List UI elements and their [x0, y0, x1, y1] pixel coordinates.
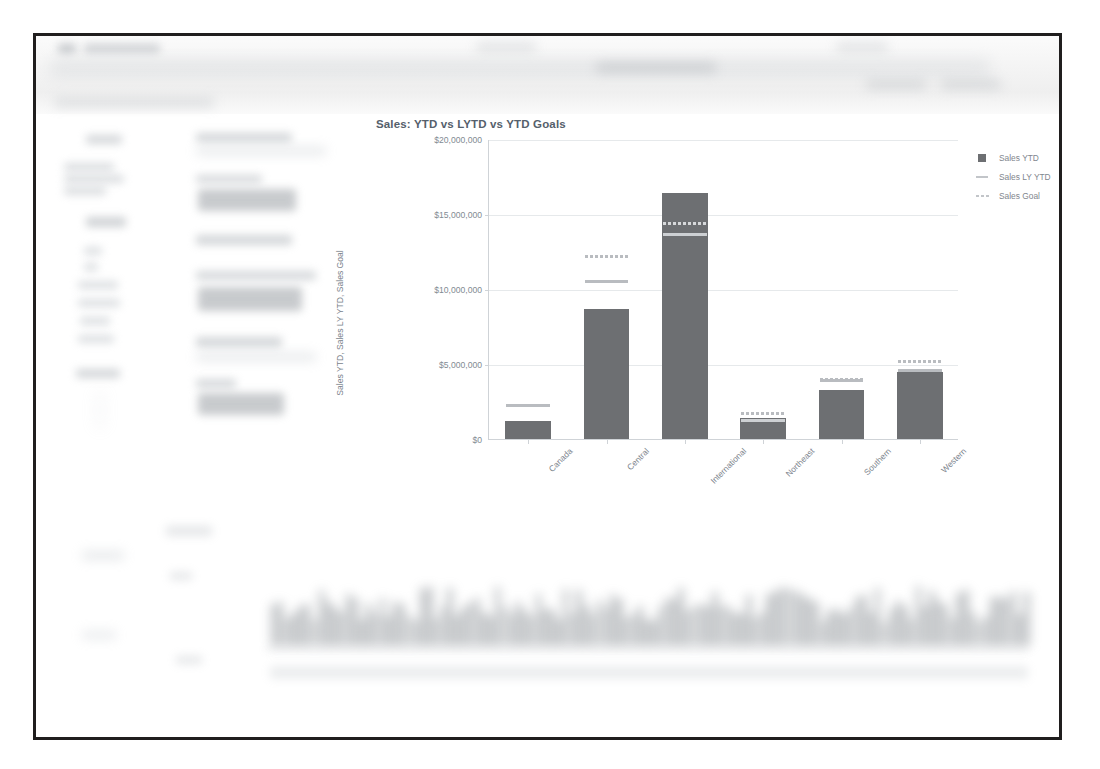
y-axis-title: Sales YTD, Sales LY YTD, Sales Goal	[335, 223, 345, 423]
bar-central[interactable]	[584, 309, 629, 440]
dense-bar	[665, 598, 671, 647]
dense-bar	[509, 614, 515, 646]
x-tick-mark	[920, 440, 921, 444]
dense-bar	[739, 613, 745, 646]
legend-item-sales-goal[interactable]: Sales Goal	[976, 186, 1051, 205]
dense-bar	[834, 609, 840, 646]
marker-ly-ytd-international	[663, 233, 707, 236]
dense-bar	[624, 617, 630, 646]
dense-bar	[895, 601, 901, 646]
dense-bar	[705, 606, 711, 646]
dense-bar	[617, 599, 623, 647]
dense-bar	[597, 600, 603, 646]
y-tick-label: $15,000,000	[434, 210, 482, 220]
dense-bar	[590, 614, 596, 646]
dense-bar	[916, 586, 922, 646]
dense-bar	[882, 622, 888, 646]
dense-bar	[515, 602, 521, 646]
chart-legend: Sales YTD Sales LY YTD Sales Goal	[976, 148, 1051, 205]
x-tick-mark	[685, 440, 686, 444]
dense-bar	[827, 610, 833, 646]
bar-canada[interactable]	[505, 421, 550, 439]
screenshot-frame: Sales: YTD vs LYTD vs YTD Goals Sales YT…	[33, 33, 1062, 740]
dense-bar	[1017, 614, 1023, 646]
dense-bar	[319, 590, 325, 646]
legend-swatch-line-icon	[976, 172, 992, 182]
dense-bar	[278, 602, 284, 646]
dense-bar	[841, 614, 847, 646]
dense-bar	[780, 587, 786, 646]
dense-bar	[692, 606, 698, 646]
dense-bar	[760, 612, 766, 646]
gridline	[489, 215, 958, 216]
dense-bar	[529, 616, 535, 646]
sidebar[interactable]	[58, 131, 178, 691]
bar-international[interactable]	[662, 193, 707, 439]
dense-bar	[990, 597, 996, 646]
y-tick-label: $5,000,000	[439, 360, 482, 370]
dense-bar	[977, 621, 983, 646]
legend-label: Sales Goal	[999, 191, 1040, 201]
dense-bar	[556, 619, 562, 646]
dense-bar	[332, 607, 338, 646]
dense-bar	[393, 602, 399, 646]
dense-bar	[712, 592, 718, 646]
app-toolbar[interactable]	[36, 36, 1059, 114]
dense-bar	[583, 605, 589, 646]
dense-bar	[522, 610, 528, 646]
dense-bar	[753, 617, 759, 646]
dense-bar-series	[271, 584, 1031, 646]
dense-bar	[746, 595, 752, 646]
marker-goal-northeast	[741, 412, 785, 415]
legend-label: Sales YTD	[999, 153, 1039, 163]
legend-item-sales-ly-ytd[interactable]: Sales LY YTD	[976, 167, 1051, 186]
bar-southern[interactable]	[819, 390, 864, 440]
dense-bar	[794, 591, 800, 646]
dense-bar	[773, 591, 779, 646]
dense-bar	[1004, 598, 1010, 646]
plot-area: $20,000,000 $15,000,000 $10,000,000 $5,0…	[488, 140, 958, 440]
dense-bar	[366, 604, 372, 646]
dense-bar	[800, 595, 806, 646]
dense-bar	[807, 599, 813, 646]
marker-goal-southern	[820, 378, 864, 381]
dense-bar	[549, 609, 555, 646]
dense-bar	[495, 587, 501, 646]
dense-bar	[678, 588, 684, 646]
marker-goal-western	[898, 360, 942, 363]
dense-bar	[502, 606, 508, 646]
legend-swatch-square-icon	[976, 153, 992, 163]
dense-bar	[685, 610, 691, 646]
dense-bar	[732, 613, 738, 647]
legend-item-sales-ytd[interactable]: Sales YTD	[976, 148, 1051, 167]
chart-title: Sales: YTD vs LYTD vs YTD Goals	[376, 118, 566, 130]
dense-bar	[576, 590, 582, 646]
marker-goal-central	[585, 255, 629, 258]
dense-bar	[631, 614, 637, 646]
dense-bar	[427, 587, 433, 646]
dense-bar	[400, 604, 406, 646]
marker-ly-ytd-western	[898, 369, 942, 372]
dense-bar	[766, 594, 772, 646]
dense-bar	[305, 604, 311, 646]
dense-bar	[291, 613, 297, 646]
dense-bar	[671, 599, 677, 646]
bar-western[interactable]	[897, 372, 942, 440]
dense-bar	[563, 589, 569, 646]
dense-bar	[787, 589, 793, 646]
dense-bar	[875, 588, 881, 646]
dense-bar	[1024, 592, 1030, 646]
x-tick-mark	[528, 440, 529, 444]
dense-bar	[644, 619, 650, 646]
dense-bar	[570, 613, 576, 646]
x-tick-mark	[763, 440, 764, 444]
dense-bar	[970, 612, 976, 646]
dense-bar	[814, 602, 820, 646]
dense-bar	[950, 618, 956, 647]
dense-bar	[454, 615, 460, 646]
dense-bar	[468, 602, 474, 646]
dense-bar	[699, 604, 705, 646]
y-tick-label: $20,000,000	[434, 135, 482, 145]
gridline	[489, 365, 958, 366]
dense-bar	[386, 616, 392, 646]
